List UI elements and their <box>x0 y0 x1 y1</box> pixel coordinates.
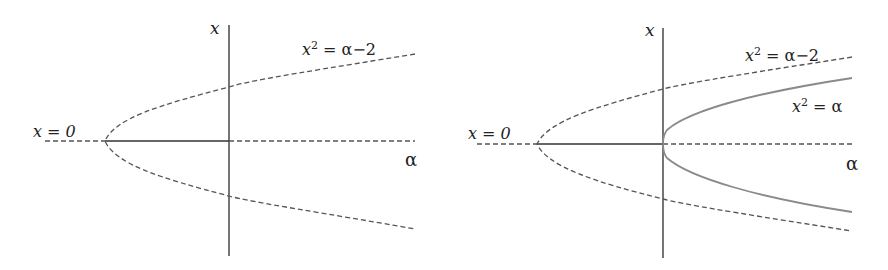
vertical-axis-label: x <box>645 20 655 40</box>
label-parabola-shifted: x2 = α−2 <box>745 45 819 65</box>
label-x-zero: x = 0 <box>468 124 511 143</box>
label-x-zero: x = 0 <box>33 122 76 141</box>
bifurcation-figure: x α x2 = α−2 x = 0 x α x2 = α−2 x2 = α x… <box>0 0 888 270</box>
horizontal-axis-label: α <box>405 149 417 170</box>
vertical-axis-label: x <box>210 18 220 38</box>
left-panel: x α x2 = α−2 x = 0 <box>33 18 417 256</box>
label-parabola: x2 = α <box>792 96 843 116</box>
label-parabola-shifted: x2 = α−2 <box>302 39 376 59</box>
horizontal-axis-label: α <box>846 153 858 174</box>
right-panel: x α x2 = α−2 x2 = α x = 0 <box>468 20 858 258</box>
